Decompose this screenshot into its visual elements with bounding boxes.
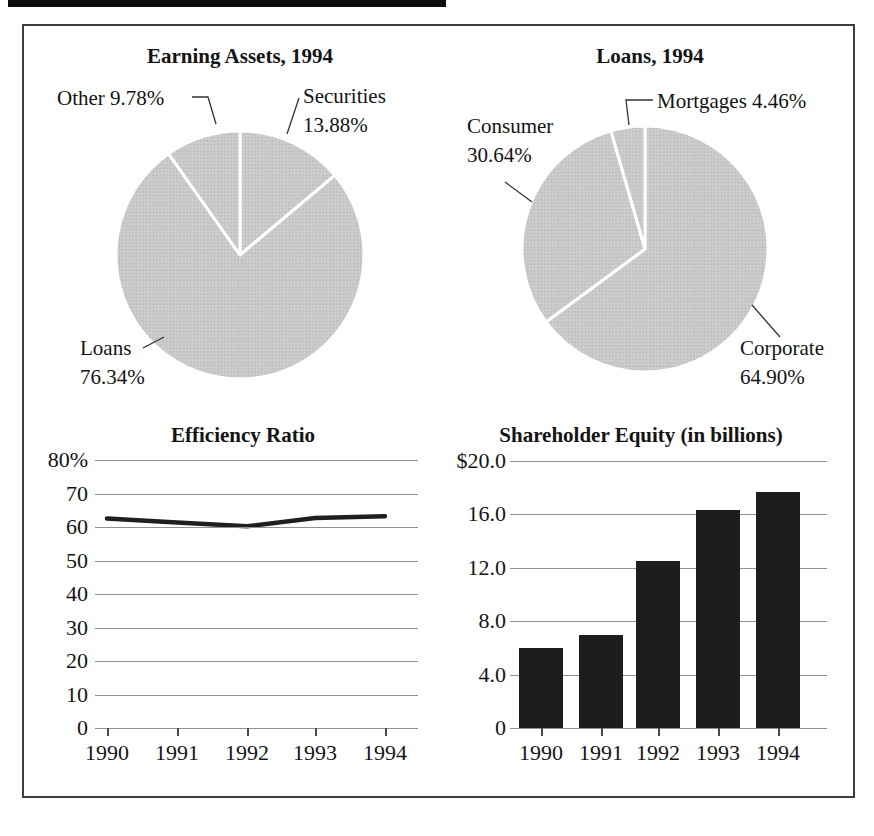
eff-x-tick-label: 1993 (280, 740, 350, 766)
equity-gridline (510, 461, 827, 462)
eff-y-tick-label: 70 (14, 481, 88, 507)
loans-pie-title: Loans, 1994 (596, 44, 703, 69)
eff-gridline (95, 728, 418, 729)
scan-artifact-bar (8, 0, 446, 7)
eff-x-tick (385, 728, 387, 736)
corporate-slice-label: Corporate 64.90% (740, 334, 824, 392)
eff-gridline (95, 561, 418, 562)
eff-x-tick (315, 728, 317, 736)
eff-y-tick-label: 30 (14, 615, 88, 641)
corporate-pct-text: 64.90% (740, 363, 824, 392)
equity-y-tick-label: 8.0 (432, 608, 506, 634)
eff-gridline (95, 460, 418, 461)
other-label-text: Other (57, 86, 105, 110)
loans-slice-label: Loans 76.34% (80, 334, 145, 392)
eff-x-tick (247, 728, 249, 736)
consumer-label-text: Consumer (467, 112, 553, 141)
eff-x-tick (177, 728, 179, 736)
equity-x-tick (718, 728, 720, 736)
eff-y-tick-label: 40 (14, 581, 88, 607)
securities-label-text: Securities (303, 82, 386, 111)
equity-bar-1991 (579, 635, 623, 728)
eff-x-tick-label: 1992 (212, 740, 282, 766)
equity-bar-1994 (756, 492, 800, 728)
equity-y-tick-label: 4.0 (432, 662, 506, 688)
equity-y-tick-label: 0 (432, 715, 506, 741)
equity-x-tick (778, 728, 780, 736)
eff-x-tick-label: 1991 (142, 740, 212, 766)
equity-x-tick (601, 728, 603, 736)
equity-title: Shareholder Equity (in billions) (499, 423, 782, 448)
equity-bar-1992 (636, 561, 680, 728)
equity-bar-1990 (519, 648, 563, 728)
other-pct-text: 9.78% (110, 86, 164, 110)
eff-y-tick-label: 10 (14, 682, 88, 708)
mortgages-pct-text: 4.46% (752, 89, 806, 113)
eff-y-tick-label: 50 (14, 548, 88, 574)
eff-gridline (95, 527, 418, 528)
eff-x-tick-label: 1990 (72, 740, 142, 766)
consumer-slice-label: Consumer 30.64% (467, 112, 553, 170)
eff-gridline (95, 594, 418, 595)
securities-slice-label: Securities 13.88% (303, 82, 386, 140)
equity-bar-1993 (696, 510, 740, 728)
securities-pct-text: 13.88% (303, 111, 386, 140)
mortgages-label-text: Mortgages (657, 89, 747, 113)
eff-x-tick (107, 728, 109, 736)
corporate-label-text: Corporate (740, 334, 824, 363)
eff-gridline (95, 661, 418, 662)
eff-y-tick-label: 0 (14, 715, 88, 741)
loans-pct-text: 76.34% (80, 363, 145, 392)
consumer-pct-text: 30.64% (467, 141, 553, 170)
eff-x-tick-label: 1994 (350, 740, 420, 766)
equity-y-tick-label: 16.0 (432, 501, 506, 527)
scanned-figure-page: Earning Assets, 1994 Loans, 1994 Efficie… (0, 0, 874, 836)
eff-y-tick-label: 20 (14, 648, 88, 674)
other-slice-label: Other 9.78% (57, 84, 164, 113)
equity-x-tick-label: 1994 (743, 740, 813, 766)
equity-y-tick-label: 12.0 (432, 555, 506, 581)
earning-assets-title: Earning Assets, 1994 (147, 44, 333, 69)
efficiency-title: Efficiency Ratio (171, 423, 315, 448)
equity-x-tick (658, 728, 660, 736)
equity-y-tick-label: $20.0 (432, 448, 506, 474)
eff-gridline (95, 695, 418, 696)
eff-gridline (95, 628, 418, 629)
earning-assets-pie (108, 123, 372, 387)
equity-x-tick (541, 728, 543, 736)
eff-y-tick-label: 60 (14, 514, 88, 540)
eff-y-tick-label: 80% (14, 447, 88, 473)
mortgages-slice-label: Mortgages 4.46% (657, 87, 806, 116)
eff-gridline (95, 494, 418, 495)
loans-label-text: Loans (80, 334, 145, 363)
